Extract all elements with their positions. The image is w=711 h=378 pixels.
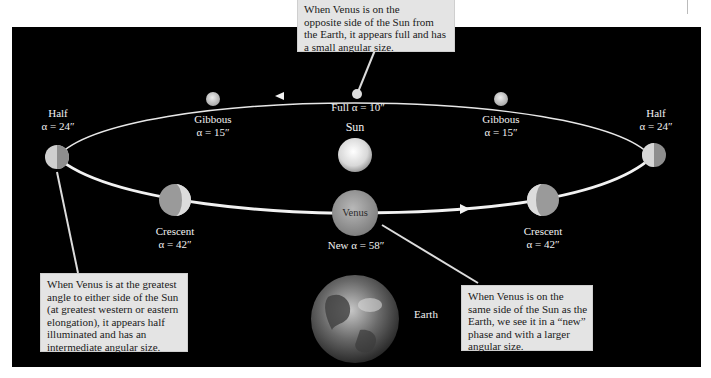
callout-line: When Venus is on the [468, 290, 586, 303]
phase-name: Gibbous [471, 113, 531, 126]
phase-name: Crescent [142, 225, 208, 238]
venus-half-left-icon [45, 145, 69, 169]
label-full: Full α = 10″ [318, 101, 398, 114]
callout-pointer-full [358, 50, 375, 92]
label-new: New α = 58″ [315, 239, 397, 252]
callout-full: When Venus is on the opposite side of th… [297, 0, 455, 52]
label-crescent-left: Crescent α = 42″ [142, 225, 208, 251]
angular-size: α = 42″ [142, 238, 208, 251]
venus-gibbous-right-icon [494, 92, 508, 106]
venus-half-right-icon [642, 143, 666, 167]
sun-icon [338, 138, 372, 172]
phase-name: Gibbous [183, 113, 243, 126]
callout-line: elongation), it appears half [47, 316, 181, 329]
angular-size: α = 15″ [183, 126, 243, 139]
phase-name: Half [626, 107, 686, 120]
orbit-arrow-icon [275, 92, 284, 100]
angular-size: α = 42″ [510, 238, 576, 251]
angular-size: α = 24″ [28, 120, 88, 133]
callout-line: When Venus is at the greatest [47, 278, 181, 291]
label-earth: Earth [406, 308, 446, 321]
callout-pointer-half [57, 172, 78, 273]
callout-line: same side of the Sun as the [468, 303, 586, 316]
callout-line: intermediate angular size. [47, 341, 181, 354]
label-gibbous-left: Gibbous α = 15″ [183, 113, 243, 139]
label-crescent-right: Crescent α = 42″ [510, 225, 576, 251]
venus-crescent-left-icon [159, 184, 191, 216]
label-venus: Venus [330, 207, 380, 218]
callout-line: phase and with a larger [468, 328, 586, 341]
angular-size: α = 15″ [471, 126, 531, 139]
callout-line: (at greatest western or eastern [47, 303, 181, 316]
callout-line: illuminated and has an [47, 328, 181, 341]
earth-icon [311, 275, 399, 363]
callout-line: angular size. [468, 340, 586, 353]
callout-new: When Venus is on the same side of the Su… [461, 285, 593, 351]
label-half-right: Half α = 24″ [626, 107, 686, 133]
label-gibbous-right: Gibbous α = 15″ [471, 113, 531, 139]
label-sun: Sun [335, 121, 375, 134]
venus-crescent-right-icon [527, 184, 559, 216]
venus-gibbous-left-icon [206, 92, 220, 106]
callout-line: When Venus is on the [304, 3, 448, 16]
callout-pointer-new [382, 225, 478, 283]
callout-line: a small angular size. [304, 41, 448, 54]
phase-name: Half [28, 107, 88, 120]
venus-full-icon [352, 89, 362, 99]
orbit-arrow-icon [460, 204, 470, 214]
callout-line: the Earth, it appears full and has [304, 28, 448, 41]
angular-size: α = 24″ [626, 120, 686, 133]
phase-name: Crescent [510, 225, 576, 238]
callout-line: angle to either side of the Sun [47, 291, 181, 304]
callout-line: Earth, we see it in a “new” [468, 315, 586, 328]
callout-line: opposite side of the Sun from [304, 16, 448, 29]
callout-half: When Venus is at the greatest angle to e… [40, 273, 188, 352]
label-half-left: Half α = 24″ [28, 107, 88, 133]
